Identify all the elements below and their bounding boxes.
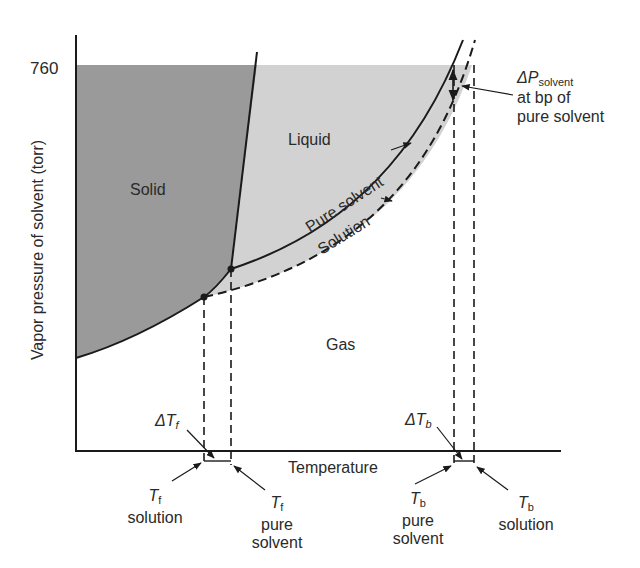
tf-solution-text: solution [125,509,185,527]
solid-region [76,65,257,358]
tb-pure-label: Tb pure solvent [388,490,448,548]
delta-tb-symbol: ΔT [405,411,426,428]
gas-region-label: Gas [326,336,355,354]
tf-pure-line2: pure [247,516,307,534]
delta-p-symbol: ΔP [517,69,538,86]
tf-pure-subscript: f [280,501,283,513]
delta-tf-label: ΔTf [155,412,179,434]
tb-solution-subscript: b [528,501,534,513]
tf-solution-subscript: f [158,494,161,506]
delta-p-subscript: solvent [538,76,573,88]
tf-solution-leader [172,463,201,481]
delta-tf-subscript: f [176,419,179,431]
tb-pure-leader [415,466,451,484]
tf-solution-label: Tf solution [125,487,185,527]
liquid-region-label: Liquid [288,131,331,149]
x-axis-label: Temperature [288,459,378,477]
tf-pure-leader [234,466,265,490]
tf-pure-line3: solvent [247,534,307,552]
tf-pure-symbol: T [271,494,281,511]
tb-solution-label: Tb solution [496,494,556,534]
delta-p-line3: pure solvent [517,108,604,126]
y-axis-label: Vapor pressure of solvent (torr) [29,140,47,360]
tb-solution-symbol: T [518,494,528,511]
tb-solution-text: solution [496,516,556,534]
phase-diagram: Pure solvent Solution Vapor pressure of … [0,0,640,568]
tf-solution-symbol: T [149,487,159,504]
delta-tb-label: ΔTb [405,411,432,433]
tb-pure-symbol: T [410,490,420,507]
delta-tb-subscript: b [426,418,432,430]
delta-tf-leader [187,430,214,458]
delta-p-line2: at bp of [517,89,570,107]
tb-pure-line3: solvent [388,530,448,548]
tf-pure-label: Tf pure solvent [247,494,307,552]
delta-tf-symbol: ΔT [155,412,176,429]
delta-p-label: ΔPsolvent [517,69,573,91]
y-tick-760: 760 [30,60,58,78]
delta-p-leader [462,86,513,95]
solid-region-label: Solid [130,181,166,199]
delta-tb-leader [437,427,462,459]
tb-pure-line2: pure [388,512,448,530]
tb-pure-subscript: b [420,497,426,509]
tb-solution-leader [477,467,508,490]
